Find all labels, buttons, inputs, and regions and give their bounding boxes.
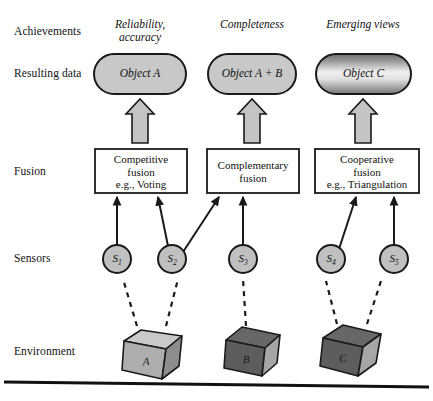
achievement-line-1: Emerging views	[311, 18, 415, 31]
sensor-node-s3[interactable]	[229, 245, 257, 273]
achievement-reliability-accuracy: Reliability, accuracy	[90, 18, 190, 44]
object-c-ellipse[interactable]	[316, 54, 411, 94]
block-arrows	[126, 99, 377, 143]
achievement-emerging-views: Emerging views	[311, 18, 415, 31]
block-arrow-2	[238, 99, 266, 143]
block-arrow-3	[349, 99, 377, 143]
observation-link-cubeC-s4	[326, 281, 337, 324]
achievement-line-1: Reliability,	[90, 18, 190, 31]
sensor-node-s1[interactable]	[103, 245, 131, 273]
ground-line	[4, 382, 429, 387]
sensor-node-s4[interactable]	[317, 245, 345, 273]
achievement-line-2: accuracy	[90, 31, 190, 44]
achievement-line-1: Completeness	[202, 18, 302, 31]
environment-cube-a[interactable]	[122, 330, 182, 379]
diagram-graphics	[0, 0, 433, 401]
row-label-achievements: Achievements	[14, 25, 81, 37]
sensor-link-s4-fb3	[339, 197, 356, 249]
environment-cube-b[interactable]	[224, 327, 280, 376]
fusion-box-cooperative[interactable]	[315, 149, 419, 193]
sensor-nodes	[103, 245, 408, 273]
environment-cube-c[interactable]	[320, 325, 381, 376]
sensor-link-s2-fb2	[183, 197, 219, 252]
fusion-box-competitive[interactable]	[95, 149, 187, 193]
observation-link-cubeA-s1	[123, 279, 137, 326]
sensor-links	[117, 197, 394, 252]
object-a-ellipse[interactable]	[94, 54, 186, 94]
environment-objects	[122, 325, 381, 379]
observation-link-cubeB-s3	[243, 279, 246, 326]
row-label-sensors: Sensors	[14, 252, 50, 264]
sensor-node-s2[interactable]	[158, 245, 186, 273]
observation-link-cubeC-s5	[367, 281, 381, 324]
diagram-canvas: Achievements Resulting data Fusion Senso…	[0, 0, 433, 401]
row-label-environment: Environment	[14, 345, 75, 357]
fusion-box-complementary[interactable]	[207, 149, 299, 193]
row-label-fusion: Fusion	[14, 165, 46, 177]
resulting-data-shapes	[94, 54, 411, 94]
achievement-completeness: Completeness	[202, 18, 302, 31]
observation-link-cubeA-s2	[166, 279, 178, 326]
row-label-resulting-data: Resulting data	[14, 67, 82, 79]
object-ab-ellipse[interactable]	[208, 54, 296, 94]
sensor-link-s2-fb1	[158, 197, 168, 246]
sensor-node-s5[interactable]	[380, 245, 408, 273]
observation-links	[123, 279, 381, 326]
fusion-boxes	[95, 149, 419, 193]
block-arrow-1	[126, 99, 154, 143]
